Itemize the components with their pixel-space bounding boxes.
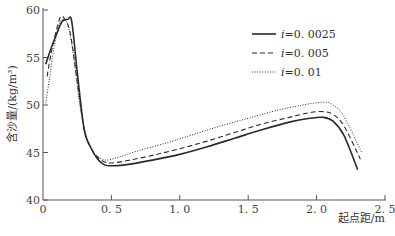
x-tick-label: 1. 5: [238, 203, 259, 216]
y-tick-label: 45: [26, 147, 40, 160]
y-tick-label: 60: [26, 4, 40, 17]
x-tick-label: 0: [40, 203, 47, 216]
legend-label: i=0. 01: [281, 66, 322, 79]
legend: i=0. 0025i=0. 005i=0. 01: [252, 28, 336, 79]
x-tick-label: 2. 0: [306, 203, 327, 216]
x-axis-title: 起点距/m: [338, 212, 386, 225]
y-ticks: 4045505560: [26, 4, 48, 207]
y-tick-label: 40: [26, 194, 40, 207]
x-tick-label: 0. 5: [101, 203, 122, 216]
y-tick-label: 55: [26, 52, 40, 65]
legend-label: i=0. 0025: [281, 28, 336, 41]
y-tick-label: 50: [26, 99, 40, 112]
legend-label: i=0. 005: [281, 47, 329, 60]
line-chart: 4045505560 00. 51. 01. 52. 02. 5 i=0. 00…: [0, 0, 395, 236]
y-axis-title: 含沙量/(kg/m³): [5, 65, 19, 143]
x-tick-label: 1. 0: [169, 203, 190, 216]
